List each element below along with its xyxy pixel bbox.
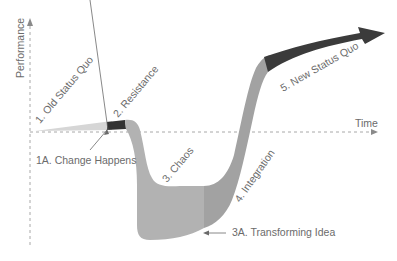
stage-old-status-quo-label: 1. Old Status Quo <box>32 54 95 126</box>
change-happens-pointer-line <box>90 130 107 150</box>
stage-change-happens-label: 1A. Change Happens <box>36 154 136 166</box>
x-axis-label: Time <box>355 117 378 129</box>
y-axis-arrow-icon <box>27 18 33 26</box>
stage-chaos-label: 3. Chaos <box>159 144 195 184</box>
y-axis-label: Performance <box>14 18 26 78</box>
change-curve-diagram: Performance Time 1. Old Status Quo 2. Re… <box>0 0 397 261</box>
change-happens-pointer <box>90 0 108 130</box>
stage-transforming-idea-label: 3A. Transforming Idea <box>232 226 335 238</box>
transforming-idea-arrow-icon <box>203 231 209 236</box>
x-axis-arrow-icon <box>371 129 378 135</box>
old-status-quo-band <box>35 121 112 131</box>
stage-resistance-label: 2. Resistance <box>110 63 160 120</box>
